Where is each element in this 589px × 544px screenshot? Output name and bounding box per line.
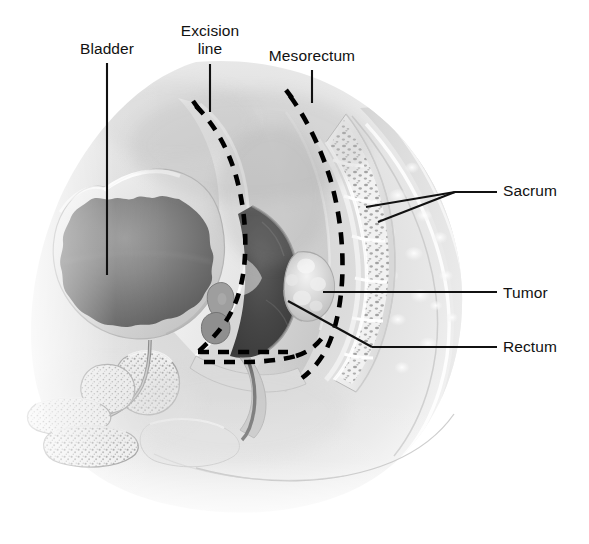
label-bladder: Bladder [76,40,138,58]
label-mesorectum: Mesorectum [258,47,366,65]
anatomy-illustration [0,0,589,544]
label-excision-line: Excisionline [148,22,272,59]
label-sacrum: Sacrum [503,182,557,200]
pelvic-anatomy-figure: Bladder Excisionline Mesorectum Sacrum T… [0,0,589,544]
label-excision-line-row-1: Excision [181,22,240,39]
bottom-fade [0,392,589,544]
label-tumor: Tumor [503,284,548,302]
label-rectum: Rectum [503,338,557,356]
label-excision-line-row-2: line [198,40,223,57]
